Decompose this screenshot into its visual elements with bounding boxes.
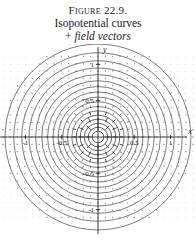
x-tick-label: 1 bbox=[169, 139, 173, 147]
figure-container: Figure 22.9. Isopotential curves + field… bbox=[0, 0, 196, 244]
contour-plot-svg: x y -1-0.50.51-1-0.50.51 bbox=[0, 44, 196, 234]
caption-field-vectors: field vectors bbox=[74, 30, 131, 42]
y-tick-label: -1 bbox=[88, 206, 94, 214]
x-tick-label: -1 bbox=[22, 139, 28, 147]
caption-line-2: Isopotential curves bbox=[0, 17, 196, 30]
y-tick-label: -0.5 bbox=[83, 170, 95, 178]
y-tick-label: 0.5 bbox=[85, 97, 94, 105]
y-tick-label: 1 bbox=[91, 61, 95, 69]
y-axis-label: y bbox=[102, 45, 107, 54]
figure-caption: Figure 22.9. Isopotential curves + field… bbox=[0, 0, 196, 43]
x-axis-label: x bbox=[187, 127, 192, 136]
figure-number: Figure 22.9. bbox=[0, 4, 196, 17]
x-tick-label: -0.5 bbox=[56, 139, 68, 147]
x-tick-label: 0.5 bbox=[130, 139, 139, 147]
caption-line-3: + field vectors bbox=[0, 30, 196, 43]
plot-area: x y -1-0.50.51-1-0.50.51 bbox=[0, 44, 196, 234]
